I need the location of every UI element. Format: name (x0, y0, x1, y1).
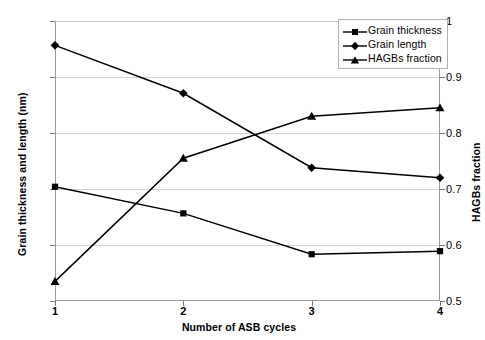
legend-item-grain-thickness[interactable]: Grain thickness (342, 23, 442, 37)
y-axis-right-tick-label: 0.8 (446, 128, 485, 139)
y-axis-left-tick (50, 21, 55, 22)
legend-label: HAGBs fraction (368, 52, 442, 64)
gridline (56, 133, 439, 134)
x-axis-tick-label: 3 (292, 306, 332, 317)
y-axis-right-tick (440, 77, 445, 78)
y-axis-right-tick (440, 245, 445, 246)
y-axis-right-tick-label: 0.9 (446, 72, 485, 83)
x-axis-tick (312, 301, 313, 306)
y-axis-left-title: Grain thickness and length (nm) (16, 92, 28, 256)
diamond-marker-icon (342, 38, 368, 50)
gridline (56, 245, 439, 246)
gridline (56, 189, 439, 190)
y-axis-right-tick-label: 0.6 (446, 240, 485, 251)
legend-label: Grain thickness (368, 24, 442, 36)
x-axis-tick (55, 301, 56, 306)
x-axis-tick (183, 301, 184, 306)
y-axis-left-tick (50, 133, 55, 134)
gridline (56, 77, 439, 78)
x-axis-tick-label: 4 (420, 306, 460, 317)
y-axis-right-tick (440, 189, 445, 190)
x-axis-tick (440, 301, 441, 306)
y-axis-right-tick-label: 1 (446, 16, 485, 27)
y-axis-left-tick (50, 77, 55, 78)
x-axis-title: Number of ASB cycles (0, 321, 478, 333)
legend: Grain thickness Grain length HAGBs fract… (338, 19, 448, 69)
legend-item-hagbs-fraction[interactable]: HAGBs fraction (342, 51, 442, 65)
triangle-marker-icon (342, 52, 368, 64)
square-marker-icon (342, 24, 368, 36)
legend-label: Grain length (368, 38, 426, 50)
y-axis-left-tick (50, 245, 55, 246)
y-axis-right-tick (440, 133, 445, 134)
y-axis-left-tick (50, 189, 55, 190)
x-axis-tick-label: 1 (35, 306, 75, 317)
y-axis-right-title: HAGBs fraction (470, 142, 482, 222)
x-axis-tick-label: 2 (163, 306, 203, 317)
legend-item-grain-length[interactable]: Grain length (342, 37, 442, 51)
